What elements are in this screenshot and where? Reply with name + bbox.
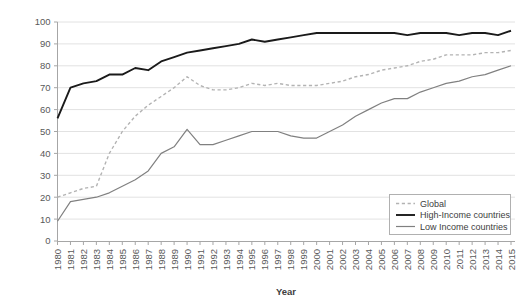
legend-label: Global [420,199,446,209]
x-tick-label: 1989 [169,249,180,270]
legend-label: Low Income countries [420,222,508,232]
x-tick-label: 1987 [143,249,154,270]
legend-label: High-Income countries [420,210,511,220]
x-tick-label: 1983 [91,249,102,270]
x-tick-label: 1990 [182,249,193,270]
x-tick-label: 1980 [52,249,63,270]
y-tick-label: 0 [45,235,50,246]
x-tick-label: 2014 [493,249,504,270]
x-tick-label: 1981 [65,249,76,270]
gridlines-group [58,22,516,219]
y-tick-label: 30 [40,170,51,181]
x-tick-label: 2008 [415,249,426,270]
x-tick-label: 2007 [402,249,413,270]
x-tick-label: 1994 [234,249,245,270]
x-tick-label: 1998 [285,249,296,270]
x-tick-label: 1999 [298,249,309,270]
x-tick-label: 2012 [467,249,478,270]
chart-legend: GlobalHigh-Income countriesLow Income co… [390,195,511,235]
x-tick-label: 1996 [259,249,270,270]
y-tick-label: 10 [40,214,51,225]
x-tick-label: 2015 [506,249,517,270]
x-tick-label: 1988 [156,249,167,270]
x-tick-label: 2013 [480,249,491,270]
x-tick-label: 2009 [428,249,439,270]
x-tick-label: 2001 [324,249,335,270]
x-tick-label: 2011 [454,249,465,269]
x-tick-label: 1986 [130,249,141,270]
x-tick-label: 2010 [441,249,452,270]
series-lines-group [58,31,512,222]
x-tick-label: 2006 [389,249,400,270]
x-tick-label: 1984 [104,249,115,270]
line-chart: 0102030405060708090100 19801981198219831… [0,0,531,308]
x-tick-label: 1992 [208,249,219,270]
y-axis-tick-marks [54,22,58,241]
y-axis-tick-labels: 0102030405060708090100 [35,16,51,246]
x-tick-label: 1982 [78,249,89,270]
y-tick-label: 50 [40,126,51,137]
x-tick-label: 2000 [311,249,322,270]
x-tick-label: 2004 [363,249,374,270]
y-tick-label: 60 [40,104,51,115]
x-tick-label: 1995 [246,249,257,270]
x-axis-tick-labels: 1980198119821983198419851986198719881989… [52,249,516,270]
x-tick-label: 1985 [117,249,128,270]
y-tick-label: 90 [40,38,51,49]
y-tick-label: 80 [40,60,51,71]
y-tick-label: 70 [40,82,51,93]
x-tick-label: 2003 [350,249,361,270]
x-tick-label: 2002 [337,249,348,270]
y-tick-label: 20 [40,192,51,203]
x-tick-label: 1991 [195,249,206,270]
y-tick-label: 100 [35,16,51,27]
x-tick-label: 1993 [221,249,232,270]
chart-container: 0102030405060708090100 19801981198219831… [0,0,531,308]
x-tick-label: 1997 [272,249,283,270]
x-axis-title: Year [276,286,296,297]
x-tick-label: 2005 [376,249,387,270]
y-tick-label: 40 [40,148,51,159]
